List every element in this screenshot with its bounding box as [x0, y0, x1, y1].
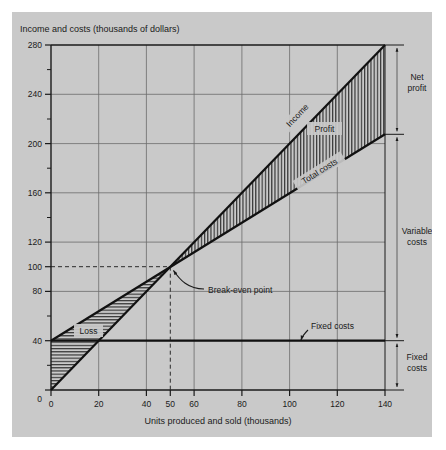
- x-tick-0: 0: [49, 399, 54, 409]
- y-tick-280: 280: [28, 40, 42, 50]
- y-tick-240: 240: [28, 89, 42, 99]
- x-axis-ticks: [51, 390, 385, 396]
- bracket-fixed-costs-line1: Fixed: [407, 352, 428, 362]
- x-tick-20: 20: [94, 399, 104, 409]
- x-tick-140: 140: [378, 399, 392, 409]
- x-tick-60: 60: [189, 399, 199, 409]
- bracket-variable-costs-line1: Variable: [402, 226, 432, 236]
- y-tick-200: 200: [28, 139, 42, 149]
- y-axis-title: Income and costs (thousands of dollars): [20, 24, 180, 34]
- profit-label: Profit: [315, 124, 335, 134]
- x-tick-80: 80: [237, 399, 247, 409]
- x-axis-title: Units produced and sold (thousands): [144, 416, 291, 426]
- bracket-net-profit-line2: profit: [408, 83, 428, 93]
- fixed-costs-inline-label: Fixed costs: [311, 321, 354, 331]
- break-even-label: Break-even point: [208, 285, 273, 295]
- x-tick-120: 120: [330, 399, 344, 409]
- y-tick-labels: 280 240 200 160 120 100 80 40 0: [28, 40, 42, 404]
- bracket-net-profit-line1: Net: [410, 72, 424, 82]
- x-tick-50: 50: [166, 399, 176, 409]
- y-tick-160: 160: [28, 188, 42, 198]
- y-tick-100: 100: [28, 262, 42, 272]
- bracket-variable-costs: Variable costs: [397, 137, 432, 337]
- y-tick-80: 80: [33, 286, 43, 296]
- break-even-chart: Income and costs (thousands of dollars): [12, 12, 432, 437]
- y-tick-120: 120: [28, 237, 42, 247]
- y-tick-40: 40: [33, 336, 43, 346]
- bracket-net-profit: Net profit: [397, 48, 427, 131]
- x-tick-labels: 0 20 40 50 60 80 100 120 140: [49, 399, 393, 409]
- loss-label-group: Loss: [74, 324, 103, 337]
- bracket-fixed-costs: Fixed costs: [397, 344, 428, 387]
- bracket-variable-costs-line2: costs: [407, 237, 427, 247]
- profit-label-group: Profit: [307, 122, 342, 135]
- figure-panel: Income and costs (thousands of dollars): [12, 12, 432, 437]
- bracket-guides: [385, 45, 404, 390]
- x-tick-40: 40: [142, 399, 152, 409]
- x-tick-100: 100: [283, 399, 297, 409]
- loss-label: Loss: [80, 326, 98, 336]
- bracket-fixed-costs-line2: costs: [407, 363, 427, 373]
- y-tick-0: 0: [37, 394, 42, 404]
